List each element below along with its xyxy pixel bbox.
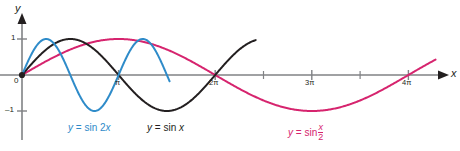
curve-label-sin-2x: y = sin 2x [68, 123, 111, 133]
fraction-denominator: 2 [318, 133, 323, 142]
curve-label-sin-x-over-2-fn: sin [304, 127, 317, 138]
x-tick-label-3pi: 3π [305, 79, 314, 87]
origin-label: 0 [14, 77, 18, 85]
curve-label-sin-x-over-2-eq: = [293, 127, 304, 138]
y-tick-label-neg-one: –1 [5, 106, 14, 114]
curve-label-sin-x: y = sin x [147, 123, 184, 133]
origin-point [19, 72, 25, 78]
y-axis-arrow [18, 13, 27, 24]
curve-label-sin-2x-rhs: sin 2x [84, 122, 110, 133]
x-tick-label-2pi: 2π [209, 79, 218, 87]
x-axis-arrow [438, 71, 449, 80]
x-axis-label: x [451, 68, 457, 79]
curve-label-sin-2x-eq: = [73, 122, 84, 133]
curve-label-sin-x-eq: = [152, 122, 163, 133]
y-tick-label-one: 1 [11, 34, 15, 42]
x-tick-label-pi: π [115, 79, 120, 87]
fraction-numerator: x [318, 123, 323, 131]
x-tick-label-4pi: 4π [402, 79, 411, 87]
sine-graph-figure: y x 1 –1 0 π 2π 3π 4π y = sin 2x y = sin… [0, 0, 460, 151]
curve-label-sin-x-rhs: sin x [163, 122, 184, 133]
curve-label-sin-x-over-2: y = sinx2 [288, 124, 323, 143]
y-axis-label: y [15, 3, 21, 14]
fraction-x-over-2: x2 [318, 123, 323, 142]
